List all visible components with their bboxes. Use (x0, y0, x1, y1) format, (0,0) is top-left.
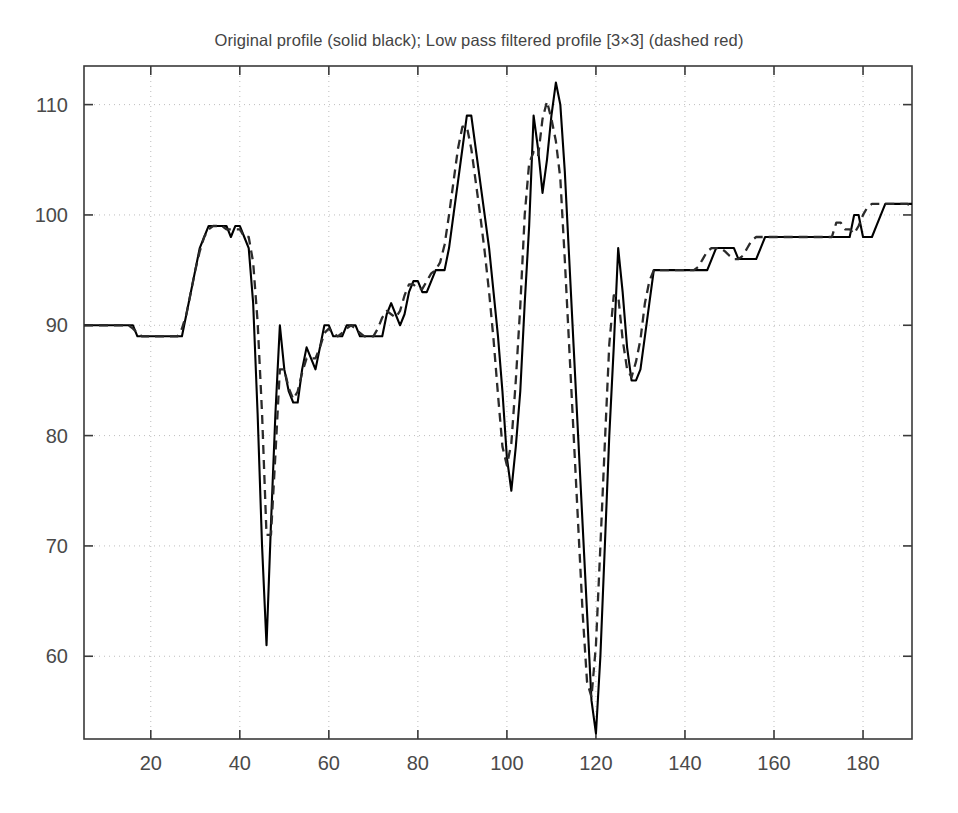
x-tick-label: 60 (318, 752, 340, 774)
chart-figure: Original profile (solid black); Low pass… (0, 0, 958, 813)
x-tick-label: 160 (757, 752, 790, 774)
series-line-original (84, 83, 912, 734)
y-tick-label: 70 (46, 535, 68, 557)
y-tick-label: 90 (46, 314, 68, 336)
series-line-filtered (84, 101, 912, 697)
y-tick-label: 110 (36, 94, 68, 116)
y-tick-label: 60 (46, 645, 68, 667)
x-tick-label: 120 (579, 752, 612, 774)
x-tick-label: 40 (229, 752, 251, 774)
x-tick-label: 140 (668, 752, 701, 774)
y-tick-label: 80 (46, 425, 68, 447)
x-tick-label: 80 (407, 752, 429, 774)
x-axis-tick-labels: 20406080100120140160180 (140, 752, 880, 774)
y-tick-label: 100 (35, 204, 68, 226)
x-tick-label: 180 (846, 752, 879, 774)
x-tick-label: 100 (490, 752, 523, 774)
plot-canvas: 60708090100110 20406080100120140160180 (0, 0, 958, 813)
y-axis-tick-labels: 60708090100110 (35, 94, 68, 668)
x-tick-label: 20 (140, 752, 162, 774)
